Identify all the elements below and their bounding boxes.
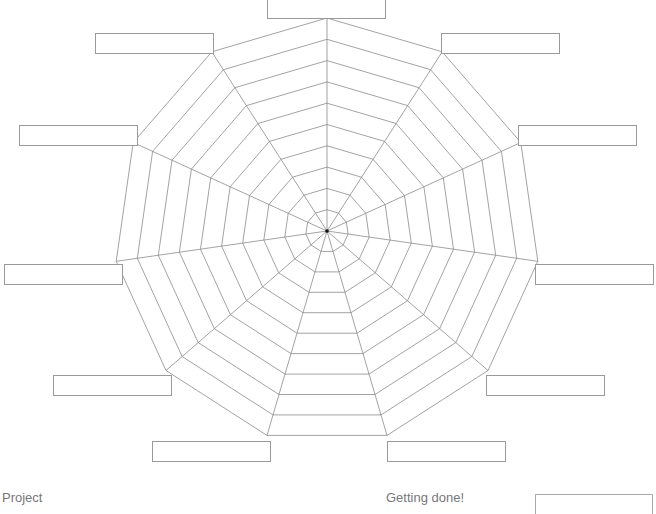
axis-4-label[interactable] [535,264,654,285]
axis-spoke [327,231,538,261]
status-input[interactable] [535,494,653,514]
axis-7-label[interactable] [152,441,271,462]
axis-1-label[interactable] [267,0,386,19]
axis-8-label[interactable] [53,375,172,396]
axis-5-label[interactable] [486,375,605,396]
axis-6-label[interactable] [387,441,506,462]
axis-10-label[interactable] [19,125,138,146]
axis-2-label[interactable] [441,33,560,54]
project-label: Project [2,490,42,506]
center-point [325,229,329,233]
axis-3-label[interactable] [518,125,637,146]
axis-9-label[interactable] [4,264,123,285]
status-label: Getting done! [386,490,464,506]
axis-spoke [116,231,327,261]
axis-11-label[interactable] [95,33,214,54]
